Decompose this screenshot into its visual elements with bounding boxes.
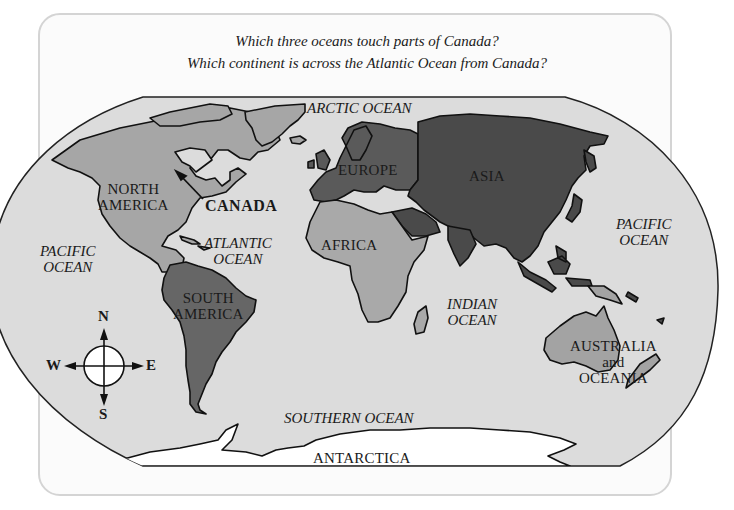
label-line: AUSTRALIA <box>570 339 657 355</box>
label-africa: AFRICA <box>321 238 377 254</box>
label-indian-ocean: INDIAN OCEAN <box>447 297 497 329</box>
label-line: NORTH <box>98 182 169 198</box>
label-line: PACIFIC <box>616 217 672 233</box>
label-europe: EUROPE <box>338 163 398 179</box>
label-line: OCEAN <box>616 233 672 249</box>
label-line: ATLANTIC <box>204 236 272 252</box>
label-asia: ASIA <box>469 169 505 185</box>
label-antarctica: ANTARCTICA <box>313 451 410 467</box>
label-line: SOUTH <box>173 291 244 307</box>
label-line: OCEAN <box>447 313 497 329</box>
compass-west-label: W <box>46 358 61 374</box>
compass-east-label: E <box>146 358 156 374</box>
label-canada-callout: CANADA <box>205 198 277 215</box>
label-line: AMERICA <box>173 307 244 323</box>
label-arctic-ocean: ARCTIC OCEAN <box>307 101 412 117</box>
label-north-america: NORTH AMERICA <box>98 182 169 214</box>
label-line: PACIFIC <box>40 244 96 260</box>
compass-north-label: N <box>98 309 109 325</box>
label-line: OCEAN <box>40 260 96 276</box>
label-atlantic-ocean: ATLANTIC OCEAN <box>204 236 272 268</box>
label-line: OCEAN <box>204 252 272 268</box>
label-line: OCEANIA <box>570 371 657 387</box>
label-pacific-ocean-west: PACIFIC OCEAN <box>40 244 96 276</box>
label-line: AMERICA <box>98 198 169 214</box>
label-south-america: SOUTH AMERICA <box>173 291 244 323</box>
label-southern-ocean: SOUTHERN OCEAN <box>284 411 414 427</box>
label-line: and <box>570 355 657 371</box>
compass-south-label: S <box>99 407 107 423</box>
world-map <box>0 0 734 510</box>
label-pacific-ocean-east: PACIFIC OCEAN <box>616 217 672 249</box>
label-line: INDIAN <box>447 297 497 313</box>
label-australia-oceania: AUSTRALIA and OCEANIA <box>570 339 657 386</box>
